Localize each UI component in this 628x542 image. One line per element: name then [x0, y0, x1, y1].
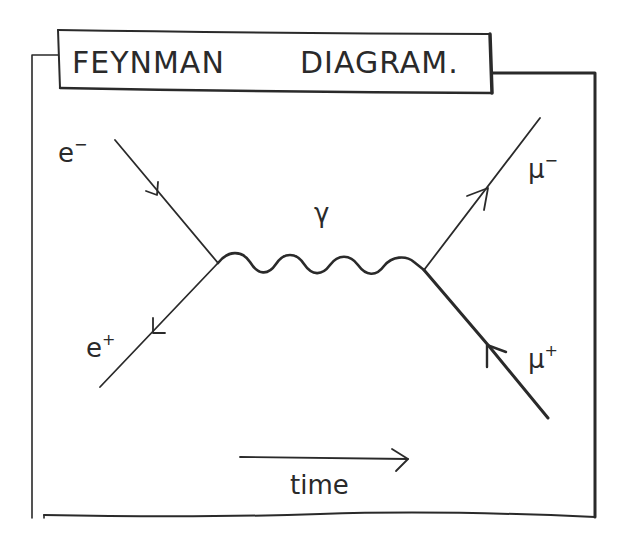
feynman-diagram-canvas: FEYNMAN DIAGRAM. e− e+ γ μ− μ+ time: [0, 0, 628, 542]
title-word-feynman: FEYNMAN: [72, 45, 225, 80]
label-positron: e+: [86, 330, 115, 363]
label-muon: μ−: [528, 151, 558, 184]
label-photon: γ: [314, 198, 329, 228]
positron-line: [100, 263, 218, 387]
arrow-right-icon: [392, 449, 408, 471]
label-electron: e−: [58, 135, 87, 168]
outer-frame: [32, 55, 595, 518]
muon-line: [424, 118, 540, 270]
label-time: time: [290, 470, 349, 500]
photon-wavy-line: [218, 253, 424, 274]
time-arrow: [240, 449, 408, 471]
electron-line: [115, 140, 218, 263]
title-box: FEYNMAN DIAGRAM.: [58, 30, 492, 93]
label-antimuon: μ+: [528, 341, 558, 374]
title-word-diagram: DIAGRAM.: [300, 45, 459, 80]
